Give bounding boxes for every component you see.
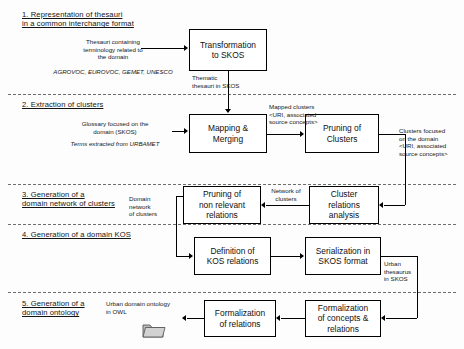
process-box-serialization-in-skos-format[interactable]: Serialization in SKOS format bbox=[305, 237, 381, 275]
process-box-formalization-concepts-relations[interactable]: Formalization of concepts & relations bbox=[305, 300, 381, 337]
arrowhead-definition-to-serialization bbox=[300, 253, 304, 259]
label-domain-network: Domain network of clusters bbox=[129, 195, 179, 218]
connector-pruning-relations-left bbox=[176, 196, 183, 197]
arrowhead-formalization-concepts-to-relations bbox=[276, 315, 280, 321]
connector-into-definition-kos bbox=[176, 256, 189, 257]
section-heading-4: 4. Generation of a domain KOS bbox=[22, 230, 131, 239]
label-urban-thesaurus: Urban thesaurus in SKOS bbox=[384, 260, 424, 283]
process-box-mapping-merging[interactable]: Mapping & Merging bbox=[189, 114, 267, 153]
arrowhead-cluster-analysis-to-pruning-relations bbox=[261, 202, 265, 208]
label-mapped-clusters: Mapped clusters <URI, associated source … bbox=[269, 103, 329, 126]
section-heading-1: 1. Representation of thesauri in a commo… bbox=[22, 10, 134, 29]
connector-cluster-analysis-to-pruning-relations bbox=[266, 205, 309, 206]
process-box-pruning-non-relevant-relations[interactable]: Pruning of non relevant relations bbox=[183, 186, 261, 224]
arrowhead-mapping-to-pruning-clusters bbox=[300, 131, 304, 137]
section-divider-4 bbox=[8, 292, 456, 293]
connector-into-formalization-concepts bbox=[386, 318, 417, 319]
connector-pruning-clusters-right bbox=[379, 134, 405, 135]
label-clusters-focused: Clusters focused on the domain <URI, ass… bbox=[399, 127, 463, 157]
section-heading-3: 3. Generation of a domain network of clu… bbox=[22, 190, 115, 209]
arrowhead-formalization-relations-to-output bbox=[182, 315, 186, 321]
label-network-of-clusters: Network of clusters bbox=[264, 187, 308, 202]
connector-pruning-relations-down bbox=[176, 196, 177, 256]
connector-thesauri-to-transformation bbox=[141, 48, 184, 49]
arrowhead-thesauri-to-transformation bbox=[184, 45, 188, 51]
connector-formalization-relations-to-output bbox=[187, 318, 204, 319]
section-heading-2: 2. Extraction of clusters bbox=[22, 100, 103, 109]
connector-serialization-down bbox=[417, 256, 418, 318]
connector-serialization-right bbox=[381, 256, 417, 257]
label-input-thesauri-examples: AGROVOC, EUROVOC, GEMET, UNESCO bbox=[38, 68, 188, 76]
arrowhead-into-formalization-concepts bbox=[381, 315, 385, 321]
connector-formalization-concepts-to-relations bbox=[281, 318, 305, 319]
process-box-formalization-of-relations[interactable]: Formalization of relations bbox=[204, 300, 276, 337]
process-box-transformation-to-skos[interactable]: Transformation to SKOS bbox=[189, 29, 267, 71]
label-glossary: Glossary focused on the domain (SKOS) bbox=[60, 120, 170, 135]
arrowhead-into-definition-kos bbox=[189, 253, 193, 259]
label-glossary-source: Terms extracted from URBAMET bbox=[54, 140, 176, 148]
connector-mapping-to-pruning-clusters bbox=[267, 134, 300, 135]
process-box-cluster-relations-analysis[interactable]: Cluster relations analysis bbox=[309, 186, 379, 224]
arrowhead-into-cluster-analysis bbox=[379, 202, 383, 208]
connector-glossary-to-mapping bbox=[172, 131, 184, 132]
section-divider-2 bbox=[8, 184, 456, 185]
diagram-canvas: 1. Representation of thesauri in a commo… bbox=[0, 0, 464, 349]
arrowhead-transformation-to-mapping bbox=[225, 109, 231, 113]
label-thematic-thesauri: Thematic thesauri in SKOS bbox=[192, 74, 270, 89]
process-box-definition-of-kos-relations[interactable]: Definition of KOS relations bbox=[194, 237, 271, 275]
arrowhead-glossary-to-mapping bbox=[184, 128, 188, 134]
connector-pruning-clusters-down bbox=[405, 134, 406, 205]
connector-definition-to-serialization bbox=[271, 256, 300, 257]
section-heading-5: 5. Generation of a domain ontology bbox=[22, 299, 85, 318]
folder-icon bbox=[141, 320, 167, 340]
section-divider-3 bbox=[8, 224, 456, 225]
label-input-thesauri: Thesauri containing terminology related … bbox=[62, 38, 164, 61]
connector-into-cluster-analysis bbox=[384, 205, 405, 206]
connector-transformation-to-mapping bbox=[228, 71, 229, 111]
section-divider-1 bbox=[8, 94, 456, 95]
label-urban-ontology: Urban domain ontology in OWL bbox=[106, 300, 196, 315]
